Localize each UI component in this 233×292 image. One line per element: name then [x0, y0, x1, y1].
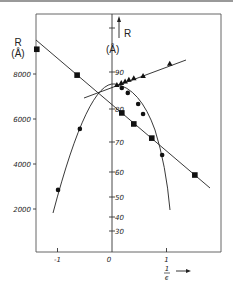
x-axis-title-denominator: ϵ [165, 274, 169, 282]
right-tick-label: 40 [115, 214, 124, 222]
right-tick-label: 70 [115, 139, 124, 147]
left-tick-label: 6000 [13, 116, 31, 124]
right-tick-label: 60 [115, 169, 124, 177]
x-tick-label: -1 [54, 256, 61, 264]
fit-lines [36, 40, 210, 213]
x-ticks: -101 [54, 248, 169, 264]
right-tick-label: 90 [115, 69, 124, 77]
square-marker [131, 121, 137, 127]
right-axis-arrow [117, 16, 121, 38]
left-y-ticks: 2000400060008000 [13, 71, 36, 214]
circle-marker [120, 86, 125, 91]
triangle-marker [167, 61, 173, 66]
square-marker [74, 72, 80, 78]
left-axis-title: R [14, 37, 21, 48]
circle-marker [160, 153, 165, 158]
right-tick-label: 50 [115, 194, 124, 202]
circle-marker [126, 91, 131, 96]
right-y-ticks: 30405060708090 [109, 28, 124, 236]
right-tick-label: 30 [115, 228, 124, 236]
x-axis-arrow [176, 269, 191, 273]
circle-marker [78, 127, 83, 132]
left-tick-label: 8000 [13, 71, 31, 79]
left-tick-label: 2000 [13, 206, 31, 214]
plot-frame [36, 14, 221, 252]
square-marker [192, 172, 198, 178]
x-axis-title-numerator: 1 [165, 265, 169, 273]
square-marker [149, 135, 155, 141]
square-marker [34, 46, 40, 52]
right-axis-title: R [124, 28, 131, 39]
square-marker [119, 110, 125, 116]
x-tick-label: 0 [107, 256, 112, 264]
circle-marker [136, 102, 141, 107]
left-tick-label: 4000 [13, 161, 31, 169]
triangle-marker [126, 77, 132, 82]
x-tick-label: 1 [164, 256, 168, 264]
triangle-marker [131, 75, 137, 80]
circle-marker [141, 112, 146, 117]
left-axis-unit: (Å) [11, 47, 24, 59]
circle-fit-curve [53, 84, 170, 213]
right-axis-unit: (Å) [106, 43, 119, 55]
circle-marker [56, 188, 61, 193]
chart: 2000400060008000 30405060708090 -101 R (… [0, 0, 233, 292]
